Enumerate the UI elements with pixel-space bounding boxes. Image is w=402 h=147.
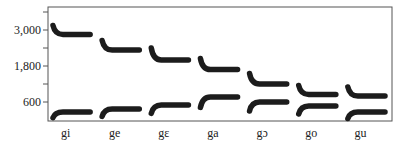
- f2-band: [53, 26, 90, 35]
- x-tick-label: gu: [354, 126, 366, 140]
- f2-band: [200, 59, 237, 70]
- f1-band: [250, 102, 287, 111]
- x-tick-label: ga: [207, 126, 219, 140]
- f1-band: [348, 112, 385, 119]
- plot-frame: [48, 7, 392, 121]
- y-axis: 6001,8003,000: [14, 12, 48, 109]
- formant-bands: [53, 26, 385, 119]
- f1-band: [53, 112, 90, 118]
- f2-band: [299, 86, 336, 95]
- y-tick-label: 3,000: [14, 23, 41, 37]
- x-tick-label: gɛ: [158, 126, 169, 140]
- y-tick-label: 1,800: [14, 59, 41, 73]
- x-tick-label: gɔ: [256, 126, 267, 140]
- formant-chart: 6001,8003,000 gigegɛgagɔgogu: [0, 0, 402, 147]
- x-tick-label: ge: [109, 126, 120, 140]
- x-axis: gigegɛgagɔgogu: [61, 126, 367, 140]
- f1-band: [299, 106, 336, 114]
- f2-band: [348, 87, 385, 96]
- f2-band: [250, 74, 287, 85]
- f1-band: [151, 105, 188, 113]
- x-tick-label: go: [305, 126, 317, 140]
- f2-band: [151, 48, 188, 60]
- f2-band: [102, 41, 139, 51]
- f1-band: [102, 109, 139, 117]
- y-tick-label: 600: [23, 95, 41, 109]
- f1-band: [200, 97, 237, 108]
- x-tick-label: gi: [61, 126, 71, 140]
